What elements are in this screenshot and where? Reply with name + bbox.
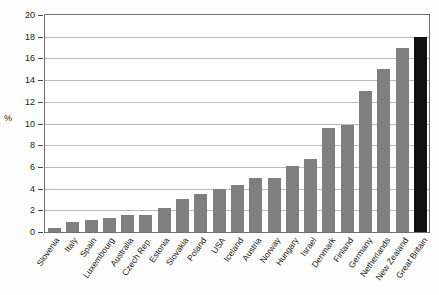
y-axis: % 02468101214161820 <box>0 0 44 234</box>
bar <box>48 228 61 232</box>
y-tick-label: 0 <box>30 228 35 237</box>
x-tick-label: Slovenia <box>35 236 61 268</box>
y-tick-label: 16 <box>25 54 35 63</box>
bar <box>121 215 134 232</box>
y-tick-mark <box>38 37 43 38</box>
y-tick-label: 14 <box>25 76 35 85</box>
y-tick-label: 10 <box>25 119 35 128</box>
bar <box>268 178 281 232</box>
y-tick-label: 6 <box>30 162 35 171</box>
bar <box>249 178 262 232</box>
x-label-slot: Poland <box>194 234 207 295</box>
y-tick-mark <box>38 232 43 233</box>
bar <box>377 69 390 232</box>
bar <box>213 189 226 232</box>
bar <box>176 199 189 232</box>
bar <box>85 220 98 232</box>
x-label-slot: Slovakia <box>176 234 189 295</box>
bar <box>139 215 152 232</box>
bar <box>286 166 299 232</box>
bar <box>414 37 427 232</box>
y-tick-label: 4 <box>30 184 35 193</box>
y-tick-mark <box>38 145 43 146</box>
bar <box>231 185 244 232</box>
x-label-slot: Italy <box>65 234 78 295</box>
x-label-slot: Austria <box>249 234 262 295</box>
x-label-slot: Czech Rep. <box>139 234 152 295</box>
y-tick-mark <box>38 124 43 125</box>
y-tick-label: 18 <box>25 32 35 41</box>
x-tick-label: Italy <box>63 236 79 254</box>
y-tick-label: 20 <box>25 11 35 20</box>
y-tick-mark <box>38 167 43 168</box>
y-tick-mark <box>38 102 43 103</box>
y-axis-title: % <box>4 113 12 123</box>
bar <box>341 125 354 232</box>
bar <box>194 194 207 232</box>
y-tick-label: 2 <box>30 206 35 215</box>
bar-chart: % 02468101214161820 SloveniaItalySpainLu… <box>0 0 439 295</box>
y-tick-label: 12 <box>25 97 35 106</box>
y-tick-mark <box>38 189 43 190</box>
bar <box>359 91 372 232</box>
bar <box>103 218 116 232</box>
bar <box>66 222 79 232</box>
plot-area <box>44 14 430 233</box>
x-axis-labels: SloveniaItalySpainLuxembourgAustraliaCze… <box>44 234 430 295</box>
y-tick-mark <box>38 15 43 16</box>
y-tick-mark <box>38 210 43 211</box>
y-tick-label: 8 <box>30 141 35 150</box>
x-label-slot: Denmark <box>323 234 336 295</box>
bars-layer <box>45 15 429 232</box>
bar <box>158 208 171 232</box>
y-tick-mark <box>38 80 43 81</box>
bar <box>304 159 317 232</box>
y-tick-mark <box>38 58 43 59</box>
x-label-slot: USA <box>213 234 226 295</box>
x-label-slot: Slovenia <box>47 234 60 295</box>
bar <box>396 48 409 232</box>
x-label-slot: Great Britain <box>415 234 428 295</box>
x-label-slot: Iceland <box>231 234 244 295</box>
x-label-slot: Hungary <box>286 234 299 295</box>
bar <box>322 128 335 232</box>
